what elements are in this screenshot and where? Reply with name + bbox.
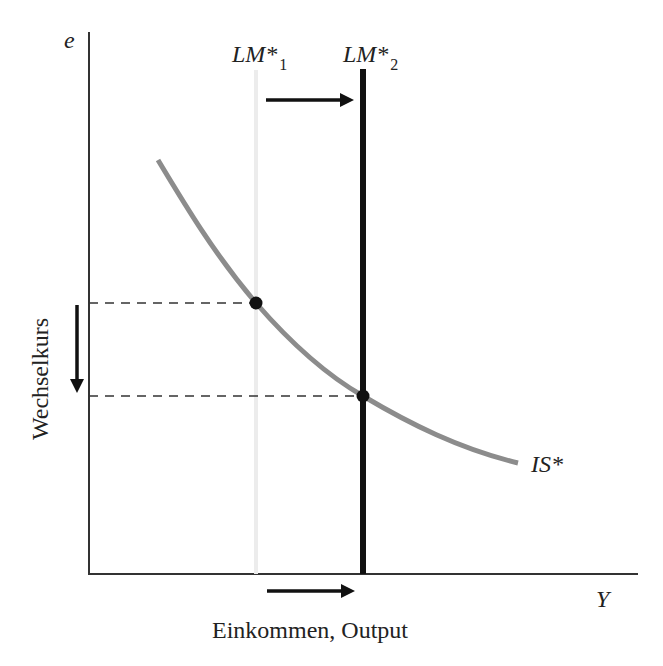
lm-shift-arrow (266, 93, 354, 107)
x-axis-label: Einkommen, Output (212, 617, 408, 643)
equilibrium-point-new (357, 390, 370, 403)
is-curve (158, 160, 518, 463)
income-right-arrow (267, 584, 355, 598)
y-axis-label: Wechselkurs (27, 318, 53, 440)
y-axis-symbol: e (64, 27, 75, 53)
exchange-rate-down-arrow (70, 305, 84, 393)
is-lm-diagram: e Y Wechselkurs Einkommen, Output LM*1 L… (0, 0, 663, 666)
x-axis-symbol: Y (596, 586, 612, 612)
lm2-subscript: 2 (390, 56, 398, 73)
is-label: IS* (530, 451, 563, 477)
lm1-label: LM*1 (231, 41, 287, 73)
equilibrium-point-initial (250, 297, 263, 310)
lm2-label: LM*2 (342, 41, 398, 73)
lm1-subscript: 1 (279, 56, 287, 73)
